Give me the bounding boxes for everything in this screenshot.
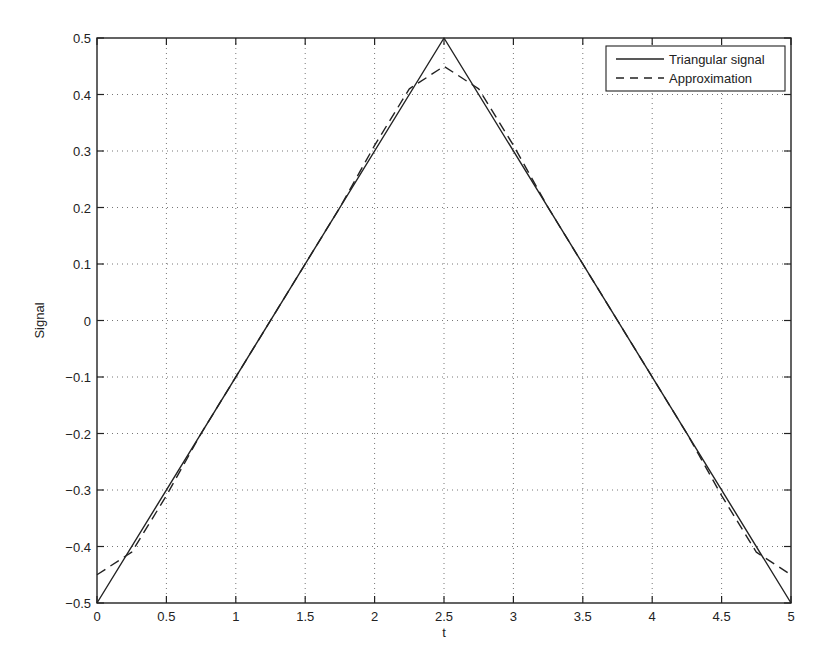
x-tick-label: 2 [371, 609, 378, 624]
y-tick-label: 0.1 [73, 257, 91, 272]
x-tick-label: 3.5 [574, 609, 592, 624]
y-axis-label: Signal [32, 302, 47, 338]
grid-lines [97, 38, 791, 603]
chart: 00.511.522.533.544.55 −0.5−0.4−0.3−0.2−0… [0, 0, 834, 668]
y-tick-label: 0 [84, 314, 91, 329]
legend-label-triangular-signal: Triangular signal [669, 52, 765, 67]
y-tick-label: −0.4 [65, 540, 91, 555]
y-tick-label: −0.1 [65, 370, 91, 385]
x-tick-label: 0.5 [157, 609, 175, 624]
y-tick-label: −0.3 [65, 483, 91, 498]
y-tick-label: −0.2 [65, 427, 91, 442]
x-tick-label: 4.5 [713, 609, 731, 624]
x-tick-label: 0 [93, 609, 100, 624]
y-tick-label: 0.4 [73, 88, 91, 103]
y-tick-label: 0.2 [73, 201, 91, 216]
x-tick-label: 1 [232, 609, 239, 624]
y-tick-label: 0.5 [73, 31, 91, 46]
x-tick-label: 5 [787, 609, 794, 624]
x-tick-label: 2.5 [435, 609, 453, 624]
x-tick-label: 1.5 [296, 609, 314, 624]
y-axis-tick-labels: −0.5−0.4−0.3−0.2−0.100.10.20.30.40.5 [65, 31, 91, 611]
y-tick-label: 0.3 [73, 144, 91, 159]
legend: Triangular signal Approximation [606, 46, 785, 91]
x-axis-tick-labels: 00.511.522.533.544.55 [93, 609, 794, 624]
y-tick-label: −0.5 [65, 596, 91, 611]
x-tick-label: 4 [649, 609, 656, 624]
x-tick-label: 3 [510, 609, 517, 624]
x-axis-label: t [442, 625, 446, 640]
legend-label-approximation: Approximation [669, 71, 752, 86]
